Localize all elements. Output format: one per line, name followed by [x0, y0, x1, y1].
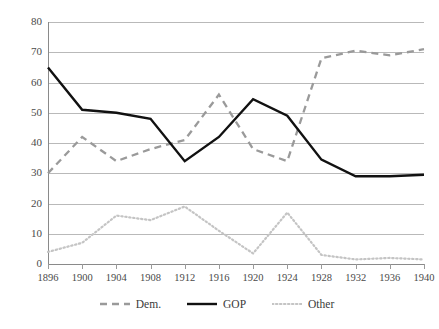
gridline: [48, 52, 424, 53]
legend-label: Other: [308, 298, 334, 310]
gridline: [48, 113, 424, 114]
y-axis-tick-label: 70: [2, 46, 42, 57]
x-axis-tick: [219, 264, 220, 269]
y-axis-tick-label: 20: [2, 198, 42, 209]
legend-item-other[interactable]: Other: [272, 298, 334, 310]
x-axis-tick: [185, 264, 186, 269]
y-axis-tick-label: 40: [2, 137, 42, 148]
gridline: [48, 173, 424, 174]
gridline: [48, 22, 424, 23]
gridline: [48, 143, 424, 144]
x-axis-tick-label: 1940: [402, 272, 439, 284]
y-axis-tick-label: 0: [2, 258, 42, 269]
legend-label: GOP: [223, 298, 246, 310]
x-axis-tick: [321, 264, 322, 269]
chart-legend: Dem.GOPOther: [0, 298, 434, 310]
x-axis-line: [48, 264, 424, 265]
x-axis-tick: [253, 264, 254, 269]
dashed-line-swatch: [100, 299, 130, 309]
plot-area: [48, 22, 424, 264]
legend-item-gop[interactable]: GOP: [187, 298, 246, 310]
x-axis-tick: [287, 264, 288, 269]
x-axis-tick: [116, 264, 117, 269]
y-axis-tick-label: 30: [2, 167, 42, 178]
dotted-line-swatch: [272, 299, 302, 309]
solid-line-swatch: [187, 299, 217, 309]
x-axis-tick: [424, 264, 425, 269]
x-axis-tick: [82, 264, 83, 269]
x-axis-tick: [48, 264, 49, 269]
legend-label: Dem.: [136, 298, 161, 310]
legend-item-dem[interactable]: Dem.: [100, 298, 161, 310]
x-axis-tick: [356, 264, 357, 269]
gridline: [48, 204, 424, 205]
x-axis-tick: [390, 264, 391, 269]
gridline: [48, 234, 424, 235]
y-axis-tick-label: 60: [2, 77, 42, 88]
y-axis-tick-labels: 01020304050607080: [0, 0, 42, 290]
x-axis-tick: [151, 264, 152, 269]
y-axis-tick-label: 10: [2, 228, 42, 239]
gridline: [48, 83, 424, 84]
y-axis-line: [48, 22, 49, 265]
y-axis-tick-label: 80: [2, 16, 42, 27]
y-axis-tick-label: 50: [2, 107, 42, 118]
